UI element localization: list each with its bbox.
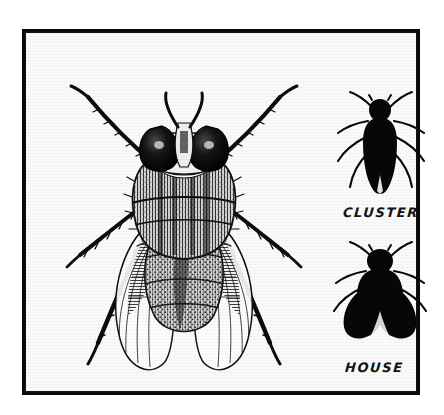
house-fly-silhouette [324,239,436,353]
illustration-plate: CLUSTER HOUSE [0,0,444,415]
detail-fly-head [140,93,229,178]
cluster-fly-label: CLUSTER [342,205,419,220]
detail-fly-illustration [64,81,304,381]
house-fly-label: HOUSE [344,360,404,375]
cluster-fly-silhouette [328,87,432,202]
antennae [166,93,203,127]
drawing-frame: CLUSTER HOUSE [22,29,420,395]
